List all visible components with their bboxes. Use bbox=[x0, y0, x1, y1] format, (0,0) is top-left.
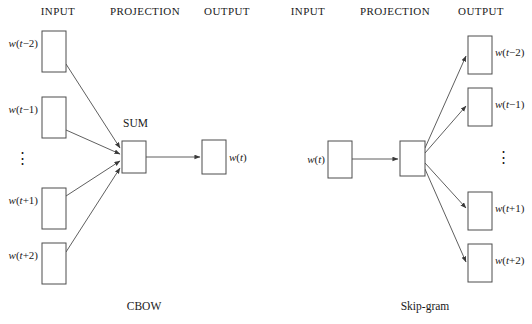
input-node-label: w(t−1) bbox=[9, 103, 39, 116]
output-node-box bbox=[468, 192, 492, 230]
output-node-box bbox=[202, 140, 226, 174]
input-node-label: w(t−2) bbox=[9, 37, 39, 50]
output-node-label: w(t−2) bbox=[495, 46, 525, 59]
word2vec-architecture-figure: INPUTPROJECTIONOUTPUTw(t−2)w(t−1)w(t+1)w… bbox=[0, 0, 532, 324]
output-node-label: w(t+1) bbox=[495, 202, 525, 215]
edge-projection-to-output-0 bbox=[425, 56, 466, 148]
column-header-input: INPUT bbox=[41, 5, 75, 17]
model-caption-skip-gram: Skip-gram bbox=[401, 300, 450, 313]
panel-cbow: INPUTPROJECTIONOUTPUTw(t−2)w(t−1)w(t+1)w… bbox=[9, 5, 250, 312]
projection-node-box bbox=[400, 141, 425, 176]
output-node-label: w(t+2) bbox=[495, 254, 525, 267]
input-node-box bbox=[42, 243, 66, 284]
sum-label: SUM bbox=[123, 117, 148, 129]
edge-projection-to-output-2 bbox=[425, 163, 466, 208]
column-header-output: OUTPUT bbox=[458, 5, 504, 17]
edge-input-3-to-projection bbox=[66, 168, 120, 252]
panel-skip-gram: INPUTPROJECTIONOUTPUTw(t)w(t−2)w(t−1)w(t… bbox=[291, 5, 525, 313]
input-node-label: w(t+1) bbox=[9, 194, 39, 207]
edge-projection-to-output-3 bbox=[425, 169, 466, 262]
input-node-label: w(t+2) bbox=[9, 249, 39, 262]
input-node-label: w(t) bbox=[307, 153, 325, 166]
output-node-label: w(t−1) bbox=[495, 98, 525, 111]
vertical-ellipsis-icon: ⋮ bbox=[496, 149, 511, 165]
vertical-ellipsis-icon: ⋮ bbox=[15, 150, 30, 166]
edge-input-1-to-projection bbox=[66, 130, 120, 154]
output-node-box bbox=[468, 88, 492, 126]
input-node-box bbox=[42, 97, 66, 138]
output-node-label: w(t) bbox=[229, 151, 247, 164]
column-header-projection: PROJECTION bbox=[110, 5, 180, 17]
output-node-box bbox=[468, 244, 492, 282]
column-header-output: OUTPUT bbox=[204, 5, 250, 17]
diagram-canvas: INPUTPROJECTIONOUTPUTw(t−2)w(t−1)w(t+1)w… bbox=[0, 0, 532, 324]
input-node-box bbox=[328, 141, 352, 178]
edge-input-2-to-projection bbox=[66, 161, 120, 196]
column-header-input: INPUT bbox=[291, 5, 325, 17]
input-node-box bbox=[42, 188, 66, 229]
input-node-box bbox=[42, 31, 66, 72]
model-caption-cbow: CBOW bbox=[127, 300, 162, 312]
projection-node-box bbox=[122, 141, 146, 173]
column-header-projection: PROJECTION bbox=[360, 5, 430, 17]
edge-input-0-to-projection bbox=[66, 64, 120, 148]
output-node-box bbox=[468, 36, 492, 74]
edge-projection-to-output-1 bbox=[425, 106, 466, 153]
